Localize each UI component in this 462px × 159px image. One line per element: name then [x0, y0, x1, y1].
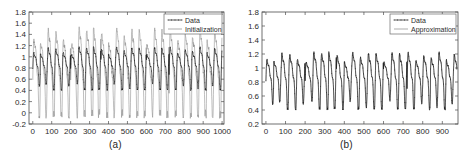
- svg-text:1.4: 1.4: [15, 30, 27, 39]
- svg-text:900: 900: [196, 127, 210, 136]
- panel-b: 01002003004005006007008009000.20.40.60.8…: [231, 0, 462, 159]
- svg-text:1.2: 1.2: [248, 50, 260, 59]
- svg-text:1.4: 1.4: [248, 36, 260, 45]
- svg-text:600: 600: [377, 127, 391, 136]
- plot-a: 01002003004005006007008009001000-0.200.2…: [0, 0, 231, 159]
- svg-text:700: 700: [159, 127, 173, 136]
- svg-text:500: 500: [357, 127, 371, 136]
- svg-text:0.4: 0.4: [248, 106, 260, 115]
- legend-label: Initialization: [185, 26, 222, 33]
- panel-b-caption: (b): [231, 139, 462, 150]
- svg-text:800: 800: [178, 127, 192, 136]
- svg-text:1000: 1000: [213, 127, 231, 136]
- svg-text:1: 1: [22, 53, 27, 62]
- panel-a: 01002003004005006007008009001000-0.200.2…: [0, 0, 231, 159]
- svg-text:800: 800: [416, 127, 430, 136]
- svg-text:1.8: 1.8: [248, 8, 260, 17]
- svg-text:400: 400: [102, 127, 116, 136]
- svg-text:0.2: 0.2: [248, 120, 260, 129]
- svg-text:600: 600: [140, 127, 154, 136]
- svg-text:1.8: 1.8: [15, 8, 27, 17]
- svg-text:200: 200: [298, 127, 312, 136]
- svg-text:0.4: 0.4: [15, 86, 27, 95]
- svg-text:0: 0: [264, 127, 269, 136]
- svg-text:300: 300: [83, 127, 97, 136]
- svg-text:0.8: 0.8: [248, 78, 260, 87]
- svg-text:300: 300: [318, 127, 332, 136]
- figure-two-panel-plot: 01002003004005006007008009001000-0.200.2…: [0, 0, 462, 159]
- svg-text:400: 400: [338, 127, 352, 136]
- svg-text:0.8: 0.8: [15, 64, 27, 73]
- legend-label: Approximation: [411, 26, 456, 34]
- svg-text:0: 0: [22, 109, 27, 118]
- legend-label: Data: [185, 17, 200, 24]
- svg-text:1.2: 1.2: [15, 42, 27, 51]
- svg-text:0.2: 0.2: [15, 98, 27, 107]
- svg-text:100: 100: [279, 127, 293, 136]
- svg-text:500: 500: [121, 127, 135, 136]
- svg-text:900: 900: [436, 127, 450, 136]
- svg-text:-0.2: -0.2: [12, 120, 26, 129]
- legend-label: Data: [411, 17, 426, 24]
- svg-text:100: 100: [45, 127, 59, 136]
- svg-text:700: 700: [396, 127, 410, 136]
- panel-a-caption: (a): [0, 139, 231, 150]
- svg-text:1: 1: [255, 64, 260, 73]
- svg-text:0.6: 0.6: [248, 92, 260, 101]
- svg-text:200: 200: [64, 127, 78, 136]
- svg-text:1.6: 1.6: [248, 22, 260, 31]
- svg-text:1.6: 1.6: [15, 19, 27, 28]
- plot-b: 01002003004005006007008009000.20.40.60.8…: [231, 0, 462, 159]
- svg-text:0: 0: [31, 127, 36, 136]
- svg-text:0.6: 0.6: [15, 75, 27, 84]
